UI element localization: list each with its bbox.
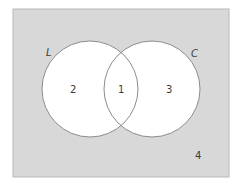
region-left-only-label: 2 [70, 84, 76, 95]
venn-diagram: L C 2 1 3 4 [0, 0, 241, 189]
region-intersection-label: 1 [118, 84, 124, 95]
region-outside-label: 4 [195, 150, 201, 161]
set-c-label: C [191, 48, 198, 59]
set-l-label: L [46, 47, 52, 58]
region-right-only-label: 3 [166, 84, 172, 95]
